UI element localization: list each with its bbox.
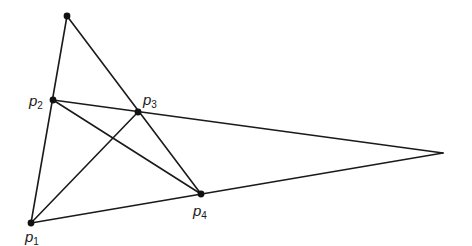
vertex-top: [64, 13, 71, 20]
label-p4-sub: 4: [201, 210, 207, 221]
edge-p1-right: [31, 153, 443, 223]
label-p1-sub: 1: [33, 236, 39, 246]
label-p1: p1: [25, 229, 39, 246]
vertex-p3: [135, 109, 142, 116]
projective-quadrilateral-diagram: [0, 0, 472, 246]
label-p2-sub: 2: [37, 100, 43, 111]
edge-p2-right: [53, 100, 443, 153]
vertex-p1: [28, 220, 35, 227]
label-p3: p3: [143, 92, 157, 110]
edge-p2-p4: [53, 100, 201, 194]
vertex-p2: [50, 97, 57, 104]
vertex-p4: [198, 191, 205, 198]
vertices: [28, 13, 205, 227]
label-p3-sub: 3: [151, 99, 157, 110]
label-p4: p4: [193, 203, 207, 221]
label-p2: p2: [29, 93, 43, 111]
edges: [31, 16, 443, 223]
